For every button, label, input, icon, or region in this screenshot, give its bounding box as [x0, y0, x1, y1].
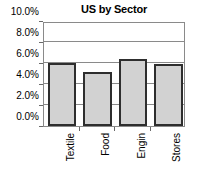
bar-food — [83, 72, 112, 126]
bar-engin — [119, 59, 148, 126]
x-axis-label-text: Engin — [137, 133, 147, 159]
y-axis-tick-label: 10.0% — [0, 7, 39, 17]
x-axis-label-textile: Textile — [66, 133, 76, 161]
bar-chart: US by Sector 0.0%2.0%4.0%6.0%8.0%10.0% T… — [0, 0, 199, 183]
x-axis-tick-mark — [79, 127, 80, 131]
x-axis-tick-mark — [114, 127, 115, 131]
bar-stores — [154, 64, 183, 126]
bar-textile — [48, 63, 77, 126]
y-axis-tick-label: 8.0% — [0, 28, 39, 38]
x-axis-label-stores: Stores — [172, 133, 182, 162]
plot-area — [43, 22, 185, 127]
chart-title: US by Sector — [40, 3, 188, 16]
x-axis-label-text: Food — [101, 133, 111, 156]
x-axis-label-text: Stores — [172, 133, 182, 162]
x-axis-label-engin: Engin — [137, 133, 147, 159]
x-axis-tick-mark — [150, 127, 151, 131]
y-axis-tick-label: 4.0% — [0, 70, 39, 80]
x-axis-label-food: Food — [101, 133, 111, 156]
y-axis-tick-label: 6.0% — [0, 49, 39, 59]
y-axis-tick-label: 2.0% — [0, 91, 39, 101]
x-axis-label-text: Textile — [66, 133, 76, 161]
y-axis-tick-label: 0.0% — [0, 112, 39, 122]
gridline — [44, 41, 184, 42]
y-axis: 0.0%2.0%4.0%6.0%8.0%10.0% — [0, 22, 39, 127]
